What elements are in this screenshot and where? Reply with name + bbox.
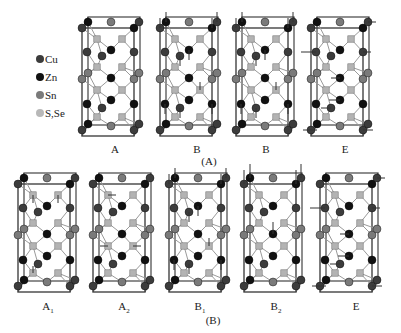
s-se-atom <box>348 64 354 70</box>
zn-atom <box>185 96 193 104</box>
cu-atom <box>89 180 97 188</box>
s-se-atom <box>348 114 354 120</box>
zn-atom <box>84 18 92 26</box>
s-se-atom <box>248 87 254 93</box>
s-se-atom <box>105 270 111 276</box>
s-se-atom <box>181 243 187 249</box>
group-label-1: (B) <box>193 314 233 326</box>
s-se-atom <box>273 64 279 70</box>
zn-atom <box>20 174 28 182</box>
s-se-atom <box>172 87 178 93</box>
panel-label-B-A1: A1 <box>28 300 68 315</box>
cu-atom <box>71 174 79 182</box>
sn-atom <box>213 69 221 77</box>
legend-item-s-se: S,Se <box>36 104 65 122</box>
zn-atom <box>118 252 126 260</box>
crystal-panel-B-B2 <box>240 164 305 292</box>
zn-atom <box>321 256 329 264</box>
sn-atom <box>71 225 79 233</box>
zn-atom <box>194 230 202 238</box>
cu-atom <box>66 204 74 212</box>
s-se-atom <box>256 270 262 276</box>
s-se-atom <box>197 64 203 70</box>
s-se-atom <box>94 64 100 70</box>
cu-atom <box>297 276 305 284</box>
zn-atom <box>322 174 330 182</box>
sn-atom <box>14 231 22 239</box>
s-se-atom <box>273 114 279 120</box>
panel-label-B-B2: B2 <box>256 300 296 315</box>
crystal-panel-A-E <box>301 17 376 136</box>
zn-atom <box>43 230 51 238</box>
sn-atom <box>232 75 240 83</box>
s-se-atom <box>119 87 125 93</box>
s-se-atom <box>332 243 338 249</box>
zn-atom <box>171 276 179 284</box>
crystal-panel-B-A2 <box>89 173 154 292</box>
sn-atom <box>95 225 103 233</box>
legend-item-sn: Sn <box>36 86 65 104</box>
sn-atom-icon <box>36 91 44 99</box>
s-se-atom <box>172 64 178 70</box>
cu-atom <box>284 48 292 56</box>
s-se-atom <box>332 270 338 276</box>
zn-atom <box>84 120 92 128</box>
cu-atom <box>170 204 178 212</box>
cu-atom <box>237 48 245 56</box>
zn-atom <box>269 252 277 260</box>
panel-label-A-A: A <box>95 143 135 155</box>
sn-atom <box>185 18 193 26</box>
zn-atom <box>19 256 27 264</box>
cu-atom <box>98 52 106 60</box>
zn-atom <box>95 174 103 182</box>
zn-atom <box>336 46 344 54</box>
s-se-atom <box>248 36 254 42</box>
sn-atom <box>84 69 92 77</box>
cu-atom <box>165 282 173 290</box>
cu-atom <box>98 104 106 112</box>
legend-item-zn: Zn <box>36 68 65 86</box>
s-se-atom <box>119 114 125 120</box>
zn-atom <box>194 252 202 260</box>
cu-atom <box>14 180 22 188</box>
sn-atom <box>269 174 277 182</box>
s-se-atom <box>105 220 111 226</box>
s-se-atom <box>256 220 262 226</box>
panel-label-B-B1: B1 <box>180 300 220 315</box>
sn-atom <box>261 122 269 130</box>
crystal-panel-A-B1 <box>156 12 221 136</box>
cu-atom <box>83 48 91 56</box>
cu-atom <box>240 282 248 290</box>
sn-atom <box>78 75 86 83</box>
cu-atom <box>109 260 117 268</box>
zn-atom <box>130 100 138 108</box>
sn-atom <box>336 18 344 26</box>
zn-atom <box>245 256 253 264</box>
s-se-atom <box>281 192 287 198</box>
sn-atom <box>316 231 324 239</box>
cu-atom <box>71 276 79 284</box>
cu-atom <box>260 208 268 216</box>
cu-atom <box>316 180 324 188</box>
sn-atom <box>165 231 173 239</box>
crystal-panel-B-A1 <box>14 173 79 292</box>
zn-atom <box>313 120 321 128</box>
zn-atom-icon <box>36 73 44 81</box>
crystal-panel-A-A <box>78 17 143 136</box>
crystal-panel-A-B2 <box>232 12 297 136</box>
cu-atom <box>245 204 253 212</box>
s-se-atom <box>281 270 287 276</box>
s-se-atom <box>119 64 125 70</box>
sn-atom <box>43 278 51 286</box>
cu-atom <box>217 204 225 212</box>
s-se-atom <box>323 87 329 93</box>
sn-atom <box>89 231 97 239</box>
cu-atom <box>292 204 300 212</box>
s-se-atom <box>357 270 363 276</box>
sn-atom <box>336 122 344 130</box>
sn-atom <box>43 174 51 182</box>
zn-atom <box>359 100 367 108</box>
s-se-atom <box>357 243 363 249</box>
s-se-atom <box>206 192 212 198</box>
cu-atom <box>161 48 169 56</box>
